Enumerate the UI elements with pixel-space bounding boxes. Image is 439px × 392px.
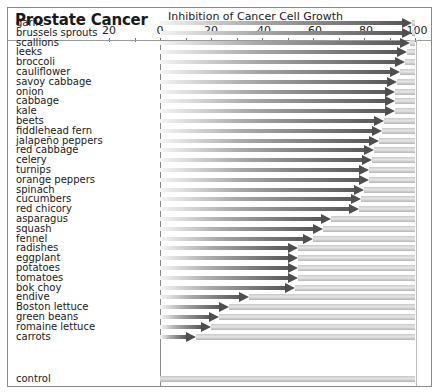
remaining-growth-bar xyxy=(298,255,415,261)
arrow-head-icon xyxy=(349,204,359,214)
arrow-head-icon xyxy=(400,38,410,48)
remaining-growth-bar xyxy=(298,275,415,281)
arrow-head-icon xyxy=(321,214,331,224)
remaining-growth-bar xyxy=(331,216,415,222)
remaining-growth-bar xyxy=(397,79,415,85)
inhibition-arrow xyxy=(160,139,369,143)
remaining-growth-bar xyxy=(395,108,415,114)
arrow-head-icon xyxy=(362,155,372,165)
inhibition-arrow xyxy=(160,99,385,103)
inhibition-arrow xyxy=(160,197,351,201)
inhibition-arrow xyxy=(160,148,364,152)
arrow-head-icon xyxy=(288,253,298,263)
inhibition-arrow xyxy=(160,80,387,84)
remaining-growth-bar xyxy=(359,206,415,212)
arrow-head-icon xyxy=(364,145,374,155)
remaining-growth-bar xyxy=(298,245,415,251)
arrow-head-icon xyxy=(288,263,298,273)
remaining-growth-bar xyxy=(249,294,415,300)
arrow-head-icon xyxy=(402,18,412,28)
arrow-head-icon xyxy=(402,28,412,38)
arrow-head-icon xyxy=(369,136,379,146)
arrow-head-icon xyxy=(397,47,407,57)
arrow-head-icon xyxy=(354,185,364,195)
inhibition-arrow xyxy=(160,246,288,250)
inhibition-arrow xyxy=(160,315,209,319)
arrow-head-icon xyxy=(359,175,369,185)
remaining-growth-bar xyxy=(369,177,415,183)
remaining-growth-bar xyxy=(382,128,415,134)
x-tick-label: 20 xyxy=(102,24,116,37)
inhibition-arrow xyxy=(160,256,288,260)
inhibition-arrow xyxy=(160,188,354,192)
inhibition-arrow xyxy=(160,295,239,299)
arrow-head-icon xyxy=(395,57,405,67)
chart-frame: Prostate Cancer Inhibition of Cancer Cel… xyxy=(7,7,432,387)
remaining-growth-bar xyxy=(196,334,415,340)
category-label: control xyxy=(16,374,51,384)
inhibition-arrow xyxy=(160,129,372,133)
inhibition-arrow xyxy=(160,168,359,172)
remaining-growth-bar xyxy=(379,138,415,144)
arrow-head-icon xyxy=(288,273,298,283)
inhibition-arrow xyxy=(160,178,359,182)
remaining-growth-bar xyxy=(369,167,415,173)
arrow-head-icon xyxy=(219,302,229,312)
inhibition-arrow xyxy=(160,109,385,113)
arrow-head-icon xyxy=(209,312,219,322)
inhibition-arrow xyxy=(160,21,402,25)
remaining-growth-bar xyxy=(372,157,415,163)
inhibition-arrow xyxy=(160,227,313,231)
inhibition-arrow xyxy=(160,217,321,221)
remaining-growth-bar xyxy=(405,59,415,65)
remaining-growth-bar xyxy=(412,30,415,36)
arrow-head-icon xyxy=(359,165,369,175)
inhibition-arrow xyxy=(160,41,400,45)
inhibition-arrow xyxy=(160,31,402,35)
inhibition-arrow xyxy=(160,266,288,270)
remaining-growth-bar xyxy=(384,118,415,124)
category-label: carrots xyxy=(16,332,51,342)
arrow-head-icon xyxy=(313,224,323,234)
arrow-head-icon xyxy=(186,332,196,342)
arrow-head-icon xyxy=(303,234,313,244)
inhibition-arrow xyxy=(160,70,390,74)
remaining-growth-bar xyxy=(364,187,415,193)
remaining-growth-bar xyxy=(400,69,415,75)
inhibition-arrow xyxy=(160,237,303,241)
inhibition-arrow xyxy=(160,286,285,290)
arrow-head-icon xyxy=(288,243,298,253)
remaining-growth-bar xyxy=(395,98,415,104)
arrow-head-icon xyxy=(387,77,397,87)
inhibition-arrow xyxy=(160,60,395,64)
remaining-growth-bar xyxy=(295,285,415,291)
arrow-head-icon xyxy=(374,116,384,126)
arrow-head-icon xyxy=(385,96,395,106)
remaining-growth-bar xyxy=(410,40,415,46)
remaining-growth-bar xyxy=(313,236,415,242)
remaining-growth-bar xyxy=(412,20,415,26)
inhibition-arrow xyxy=(160,158,362,162)
arrow-head-icon xyxy=(390,67,400,77)
inhibition-arrow xyxy=(160,335,186,339)
remaining-growth-bar xyxy=(211,324,415,330)
remaining-growth-bar xyxy=(407,49,415,55)
remaining-growth-bar xyxy=(298,265,415,271)
max-boundary-line xyxy=(416,40,417,386)
arrow-head-icon xyxy=(385,106,395,116)
control-bar xyxy=(160,376,415,382)
inhibition-arrow xyxy=(160,276,288,280)
remaining-growth-bar xyxy=(374,147,415,153)
arrow-head-icon xyxy=(201,322,211,332)
remaining-growth-bar xyxy=(361,196,415,202)
inhibition-arrow xyxy=(160,90,385,94)
remaining-growth-bar xyxy=(323,226,415,232)
arrow-head-icon xyxy=(239,292,249,302)
remaining-growth-bar xyxy=(229,304,415,310)
inhibition-arrow xyxy=(160,325,201,329)
arrow-head-icon xyxy=(285,283,295,293)
remaining-growth-bar xyxy=(395,89,415,95)
arrow-head-icon xyxy=(351,194,361,204)
inhibition-arrow xyxy=(160,305,219,309)
arrow-head-icon xyxy=(385,87,395,97)
